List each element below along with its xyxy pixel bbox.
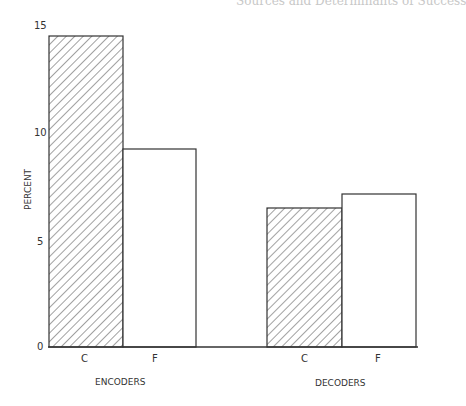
bar-encoders-c — [49, 36, 123, 347]
y-tick-10: 10 — [34, 127, 47, 138]
bar-decoders-c — [267, 208, 342, 347]
y-tick-0: 0 — [37, 341, 43, 352]
x-label-decoders-f: F — [375, 353, 381, 364]
x-label-decoders-c: C — [301, 353, 308, 364]
x-label-encoders-c: C — [81, 353, 88, 364]
bar-decoders-f — [342, 194, 416, 347]
x-label-encoders-f: F — [152, 353, 158, 364]
bar-encoders-f — [123, 149, 196, 347]
y-tick-5: 5 — [37, 236, 43, 247]
group-label-encoders: ENCODERS — [95, 377, 146, 387]
group-label-decoders: DECODERS — [315, 378, 366, 388]
y-axis-label: PERCENT — [23, 168, 33, 210]
y-tick-15: 15 — [34, 20, 47, 31]
